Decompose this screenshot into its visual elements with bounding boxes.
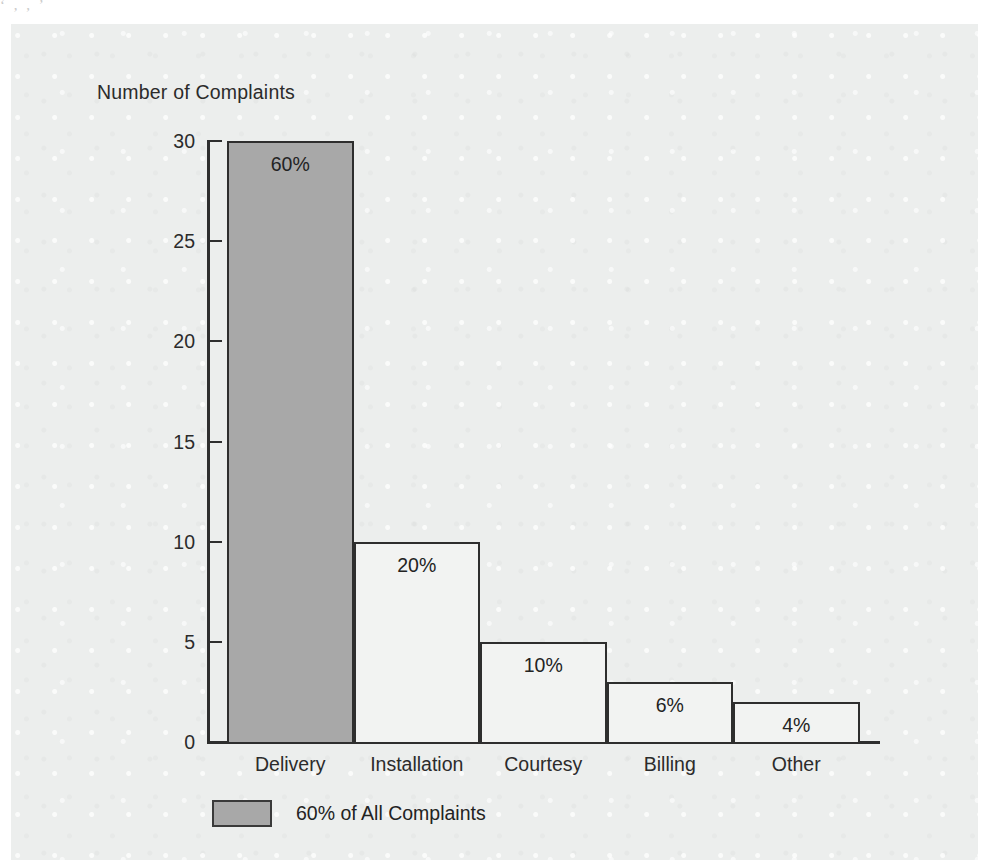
y-axis-tick — [209, 441, 222, 443]
y-axis-tick-label: 30 — [149, 130, 195, 153]
bar-chart-plot: 051015202530 60%20%10%6%4% DeliveryInsta… — [11, 24, 978, 860]
chart-legend: 60% of All Complaints — [212, 800, 486, 827]
bar-value-label-installation: 20% — [397, 554, 436, 577]
y-axis-tick-label: 5 — [149, 630, 195, 653]
y-axis-tick-label: 25 — [149, 230, 195, 253]
bar-value-label-courtesy: 10% — [524, 654, 563, 677]
page-text-sliver: ʻ , , ʼ — [0, 0, 990, 20]
chart-figure: Number of Complaints 051015202530 60%20%… — [11, 24, 978, 860]
legend-label: 60% of All Complaints — [296, 802, 486, 825]
category-label-installation: Installation — [370, 753, 463, 776]
y-axis-tick — [209, 541, 222, 543]
y-axis-tick — [209, 741, 222, 743]
legend-swatch-icon — [212, 800, 272, 827]
y-axis-tick — [209, 140, 222, 142]
category-label-billing: Billing — [644, 753, 696, 776]
category-label-delivery: Delivery — [255, 753, 325, 776]
category-label-courtesy: Courtesy — [504, 753, 582, 776]
y-axis-tick — [209, 641, 222, 643]
y-axis-tick-label: 15 — [149, 430, 195, 453]
y-axis-tick-label: 0 — [149, 731, 195, 754]
bar-value-label-billing: 6% — [656, 694, 684, 717]
bar-value-label-other: 4% — [782, 714, 810, 737]
bar-delivery[interactable] — [227, 141, 354, 744]
category-label-other: Other — [772, 753, 821, 776]
y-axis-tick — [209, 240, 222, 242]
y-axis-tick-label: 10 — [149, 530, 195, 553]
bar-value-label-delivery: 60% — [271, 153, 310, 176]
figure-page: ʻ , , ʼ Number of Complaints 05101520253… — [0, 0, 990, 865]
y-axis-tick — [209, 340, 222, 342]
y-axis-tick-label: 20 — [149, 330, 195, 353]
